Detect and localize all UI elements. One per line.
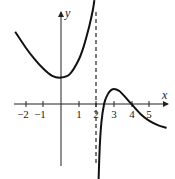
- svg-text:3: 3: [111, 108, 117, 120]
- y-axis-label: y: [64, 6, 71, 20]
- svg-text:1: 1: [76, 108, 82, 120]
- svg-text:4: 4: [129, 108, 135, 120]
- x-axis-label: x: [161, 88, 168, 102]
- function-graph: x y −2 −1 1 2 3 4 5: [0, 0, 175, 179]
- x-tick-labels: −2 −1 1 2 3 4 5: [17, 108, 152, 120]
- svg-text:5: 5: [146, 108, 152, 120]
- curve-left-branch: [15, 0, 94, 77]
- svg-text:−1: −1: [34, 108, 46, 120]
- svg-text:−2: −2: [17, 108, 29, 120]
